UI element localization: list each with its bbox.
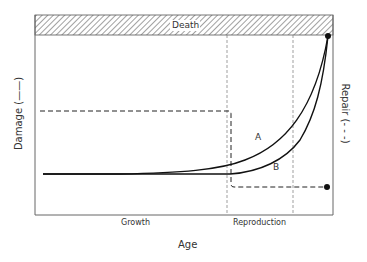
x-axis-label: Age: [178, 239, 197, 250]
diagram-canvas: [0, 0, 367, 262]
death-label: Death: [172, 20, 199, 30]
curve-label-a: A: [255, 132, 261, 142]
left-axis-label: Damage (——): [13, 74, 24, 154]
repair-curve: [40, 111, 327, 187]
repair-end-dot: [324, 184, 330, 190]
damage-curve-a: [43, 36, 328, 174]
right-axis-label: Repair (- - -): [340, 74, 351, 154]
curve-label-b: B: [273, 162, 279, 172]
death-point-dot: [325, 33, 331, 39]
damage-curve-b: [43, 36, 328, 174]
phase-label-reproduction: Reproduction: [233, 218, 286, 227]
phase-label-growth: Growth: [121, 218, 150, 227]
